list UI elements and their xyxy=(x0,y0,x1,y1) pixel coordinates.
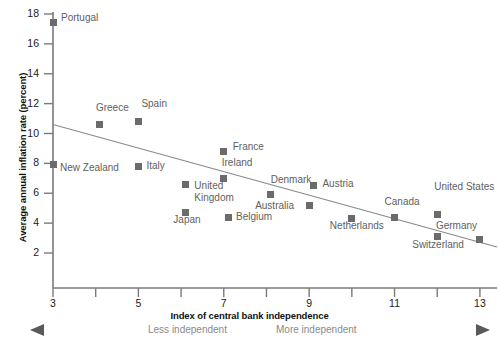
x-tick-marks xyxy=(53,288,480,297)
x-tick-label-11: 11 xyxy=(383,297,407,309)
x-tick-label-5: 5 xyxy=(126,297,150,309)
data-point-label: France xyxy=(233,141,264,153)
inflation-vs-cbi-scatter-chart: Average annual inflation rate (percent) … xyxy=(0,0,499,340)
data-point-label: United Kingdom xyxy=(194,180,246,203)
data-point-marker xyxy=(182,181,189,188)
data-point-marker xyxy=(96,121,103,128)
x-tick-label-13: 13 xyxy=(468,297,492,309)
y-tick-label-18: 18 xyxy=(15,7,39,19)
data-point-marker xyxy=(225,214,232,221)
data-point-label: Ireland xyxy=(222,157,253,169)
data-point-label: Greece xyxy=(96,102,129,114)
data-point-marker xyxy=(391,214,398,221)
y-tick-label-16: 16 xyxy=(15,37,39,49)
data-point-label: Australia xyxy=(255,200,294,212)
data-point-label: Belgium xyxy=(236,211,272,223)
y-tick-label-10: 10 xyxy=(15,127,39,139)
y-tick-label-14: 14 xyxy=(15,67,39,79)
data-point-marker xyxy=(306,202,313,209)
data-point-marker xyxy=(267,191,274,198)
more-independent-label: More independent xyxy=(276,324,357,335)
y-tick-label-12: 12 xyxy=(15,97,39,109)
x-tick-label-3: 3 xyxy=(41,297,65,309)
trend-line xyxy=(53,125,497,247)
data-point-label: Portugal xyxy=(61,12,98,24)
data-point-marker xyxy=(50,19,57,26)
data-point-label: Denmark xyxy=(271,174,312,186)
less-independent-label: Less independent xyxy=(148,324,227,335)
data-point-label: Italy xyxy=(146,160,164,172)
arrow-annotation-row: Less independent More independent xyxy=(0,322,499,340)
data-point-label: Japan xyxy=(173,214,200,226)
data-point-label: Austria xyxy=(322,178,353,190)
data-point-marker xyxy=(135,118,142,125)
data-point-marker xyxy=(50,161,57,168)
y-tick-marks xyxy=(44,14,53,253)
data-point-label: Germany xyxy=(436,220,477,232)
y-tick-label-6: 6 xyxy=(15,186,39,198)
data-point-marker xyxy=(220,148,227,155)
data-point-label: Spain xyxy=(141,98,167,110)
data-point-label: United States xyxy=(434,181,494,193)
y-tick-label-4: 4 xyxy=(15,216,39,228)
x-tick-label-9: 9 xyxy=(297,297,321,309)
data-point-marker xyxy=(476,236,483,243)
regression-line xyxy=(53,125,497,247)
data-point-label: Canada xyxy=(385,196,420,208)
data-point-label: Switzerland xyxy=(412,239,464,251)
data-point-label: New Zealand xyxy=(60,162,119,174)
x-tick-label-7: 7 xyxy=(212,297,236,309)
data-point-label: Netherlands xyxy=(330,220,384,232)
data-point-marker xyxy=(135,163,142,170)
y-tick-label-8: 8 xyxy=(15,156,39,168)
y-tick-label-2: 2 xyxy=(15,246,39,258)
data-point-marker xyxy=(434,211,441,218)
